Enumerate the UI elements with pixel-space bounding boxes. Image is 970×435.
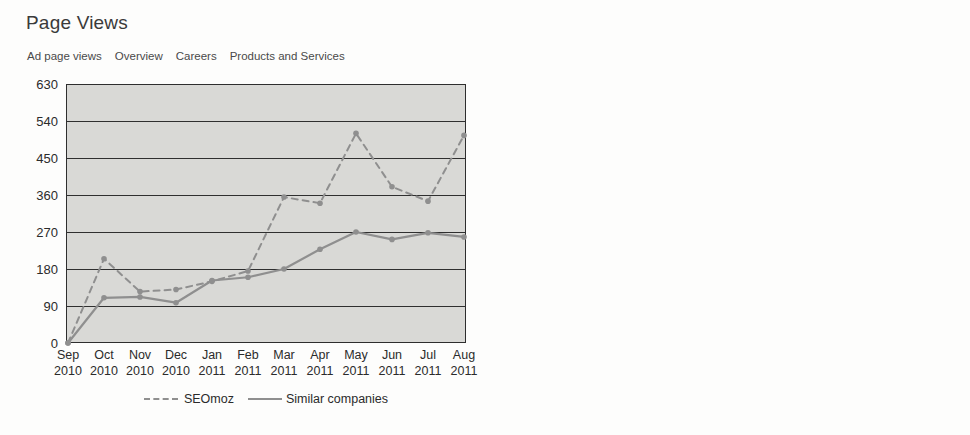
data-point xyxy=(317,200,323,206)
data-point xyxy=(245,268,251,274)
data-point xyxy=(101,256,107,262)
x-axis-tick-label: Jan2011 xyxy=(199,347,226,379)
legend-label-similar-companies: Similar companies xyxy=(286,392,388,406)
x-axis-tick-label: Aug2011 xyxy=(451,347,478,379)
data-point xyxy=(101,295,107,301)
plot-area xyxy=(66,84,466,343)
x-axis-tick-label: Oct2010 xyxy=(90,347,118,379)
x-axis-tick-label: Nov2010 xyxy=(126,347,154,379)
legend-label-seomoz: SEOmoz xyxy=(184,392,234,406)
data-point xyxy=(389,237,395,243)
x-axis-tick-label: Apr2011 xyxy=(307,347,334,379)
page-title: Page Views xyxy=(26,12,128,34)
data-point xyxy=(389,184,395,190)
x-axis-tick-label: Feb2011 xyxy=(235,347,262,379)
data-point xyxy=(461,133,467,139)
data-point xyxy=(425,198,431,204)
x-axis-tick-label: Dec2010 xyxy=(162,347,190,379)
data-point xyxy=(173,300,179,306)
x-axis-tick-label: Sep2010 xyxy=(54,347,82,379)
nav-item-products-and-services[interactable]: Products and Services xyxy=(230,50,345,62)
data-point xyxy=(353,131,359,137)
nav-item-overview[interactable]: Overview xyxy=(115,50,163,62)
data-point xyxy=(245,274,251,280)
y-axis-tick-label: 450 xyxy=(36,151,58,166)
nav-item-careers[interactable]: Careers xyxy=(176,50,217,62)
data-point xyxy=(281,194,287,200)
x-axis-tick-label: Mar2011 xyxy=(271,347,298,379)
data-point xyxy=(65,340,71,346)
data-point xyxy=(317,246,323,252)
solid-line-icon xyxy=(248,398,282,400)
x-axis-labels: Sep2010Oct2010Nov2010Dec2010Jan2011Feb20… xyxy=(66,347,466,387)
y-axis-tick-label: 180 xyxy=(36,262,58,277)
data-point xyxy=(425,230,431,236)
x-axis-tick-label: Jul2011 xyxy=(415,347,442,379)
charts-container: Page Views Ad page views Overview Career… xyxy=(0,0,970,435)
data-point xyxy=(137,294,143,300)
legend-entry-similar-companies: Similar companies xyxy=(238,392,388,406)
data-point xyxy=(281,266,287,272)
chart-panel-page-views: Page Views Ad page views Overview Career… xyxy=(0,0,485,435)
y-axis-labels: 090180270360450540630 xyxy=(0,84,62,343)
dashed-line-icon xyxy=(144,398,178,400)
y-axis-tick-label: 360 xyxy=(36,188,58,203)
series-line-similar-companies xyxy=(68,232,464,343)
y-axis-tick-label: 540 xyxy=(36,114,58,129)
data-point xyxy=(173,287,179,293)
data-point xyxy=(461,234,467,240)
nav-item-ad-page-views[interactable]: Ad page views xyxy=(27,50,102,62)
data-point xyxy=(137,289,143,295)
data-point xyxy=(209,278,215,284)
nav-bar: Ad page views Overview Careers Products … xyxy=(27,50,345,62)
chart-panel-unique-visitors: Unique Vistors Ad page views Overview Ca… xyxy=(485,0,970,435)
x-axis-tick-label: Jun2011 xyxy=(379,347,406,379)
y-axis-tick-label: 90 xyxy=(44,299,58,314)
legend: SEOmoz Similar companies xyxy=(66,392,466,406)
y-axis-tick-label: 630 xyxy=(36,77,58,92)
legend-entry-seomoz: SEOmoz xyxy=(144,392,234,406)
data-point xyxy=(353,229,359,235)
x-axis-tick-label: May2011 xyxy=(343,347,370,379)
series-layer xyxy=(66,84,466,343)
y-axis-tick-label: 270 xyxy=(36,225,58,240)
